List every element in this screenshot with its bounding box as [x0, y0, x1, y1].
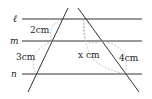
segment-right-lower: 4cm [119, 53, 139, 63]
brace-left-lower [33, 41, 52, 74]
diagram-canvas: ℓ m n 2cm 3cm x cm 4cm [0, 0, 152, 99]
brace-right-upper2 [84, 19, 125, 74]
brace-right-upper [83, 19, 101, 43]
segment-left-upper: 2cm [30, 25, 50, 35]
left-transversal [28, 8, 68, 92]
segment-right-upper: x cm [78, 50, 100, 60]
parallel-lines-diagram: ℓ m n 2cm 3cm x cm 4cm [0, 0, 152, 99]
segment-left-lower: 3cm [16, 52, 36, 62]
label-l: ℓ [13, 13, 17, 24]
label-n: n [11, 69, 17, 79]
label-m: m [10, 36, 19, 46]
